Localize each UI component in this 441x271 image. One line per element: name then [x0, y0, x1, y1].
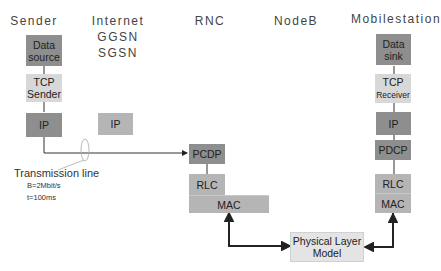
- data-source-label-1: Data: [33, 39, 55, 51]
- transmission-bandwidth: B=2Mbit/s: [27, 181, 61, 190]
- data-source-box: Datasource: [26, 35, 62, 66]
- tcp-receiver-box: TCPReceiver: [375, 74, 411, 103]
- mobile-pdcp-box: PDCP: [375, 140, 411, 160]
- sender-ip-box: IP: [26, 113, 62, 137]
- connection-lines: [0, 0, 441, 271]
- transmission-line-label: Transmission line: [14, 167, 99, 179]
- tcp-receiver-label-1: TCP: [382, 76, 403, 88]
- data-source-label-2: source: [28, 51, 60, 63]
- tcp-receiver-label-2: Receiver: [376, 90, 410, 100]
- mobile-ip-box: IP: [376, 112, 411, 135]
- rnc-pcdp-box: PCDP: [189, 144, 225, 164]
- internet-ip-box: IP: [98, 113, 133, 135]
- data-sink-label-2: sink: [384, 50, 403, 62]
- rnc-rlc-box: RLC: [189, 174, 225, 196]
- mobile-mac-box: MAC: [375, 193, 411, 213]
- data-sink-box: Datasink: [376, 34, 411, 65]
- transmission-delay: t=100ms: [27, 193, 56, 202]
- tcp-sender-label-1: TCP: [33, 76, 54, 88]
- physical-layer-model-box: Physical LayerModel: [290, 232, 364, 262]
- physical-layer-label-1: Physical Layer: [293, 235, 361, 247]
- data-sink-label-1: Data: [382, 38, 404, 50]
- mobile-rlc-box: RLC: [375, 174, 411, 193]
- rnc-mac-box: MAC: [189, 195, 269, 213]
- physical-layer-label-2: Model: [313, 247, 342, 259]
- tcp-sender-label-2: Sender: [27, 88, 61, 100]
- tcp-sender-box: TCPSender: [26, 74, 62, 102]
